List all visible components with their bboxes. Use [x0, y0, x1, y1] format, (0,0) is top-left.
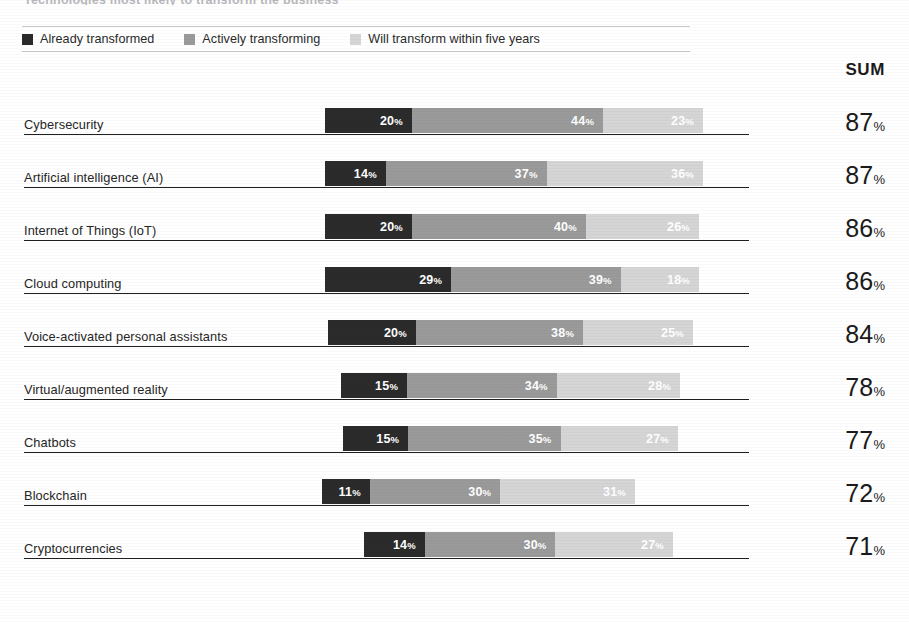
percent-sign: %: [585, 116, 594, 127]
legend-swatch-actively-transforming-icon: [184, 34, 195, 45]
bar-segment-value: 27%: [646, 432, 669, 446]
percent-sign: %: [529, 169, 538, 180]
bar-segment-already-transformed: 20%: [325, 214, 412, 239]
bar-segment-actively-transforming: 44%: [412, 108, 603, 133]
bar-segment-actively-transforming: 34%: [407, 373, 557, 398]
chart-row: Internet of Things (IoT)20%40%26%86%: [0, 194, 909, 247]
percent-sign: %: [407, 540, 416, 551]
row-category-label: Voice-activated personal assistants: [24, 329, 227, 344]
bar-segment-value: 44%: [571, 114, 594, 128]
bar-segment-value: 15%: [376, 432, 399, 446]
bar-segment-already-transformed: 20%: [325, 108, 412, 133]
row-sum-value: 71%: [845, 532, 885, 561]
row-category-label: Chatbots: [24, 435, 76, 450]
row-sum-number: 71: [845, 532, 873, 560]
percent-sign: %: [655, 540, 664, 551]
bar-segment-value: 31%: [603, 485, 626, 499]
chart-row: Blockchain11%30%31%72%: [0, 459, 909, 512]
legend-item-already-transformed: Already transformed: [22, 32, 154, 46]
percent-sign: %: [685, 116, 694, 127]
percent-sign: %: [394, 222, 403, 233]
row-sum-percent-sign: %: [873, 543, 885, 558]
percent-sign: %: [617, 487, 626, 498]
bar-segment-value: 20%: [380, 220, 403, 234]
bar-segment-will-transform: 18%: [621, 267, 699, 292]
bar-segment-already-transformed: 29%: [325, 267, 451, 292]
chart-row: Chatbots15%35%27%77%: [0, 406, 909, 459]
bar-segment-value: 35%: [529, 432, 552, 446]
row-sum-value: 87%: [845, 161, 885, 190]
bar-segment-value: 15%: [375, 379, 398, 393]
bar-segment-value: 14%: [393, 538, 416, 552]
sum-column-header: SUM: [845, 60, 885, 80]
bar-segment-value: 37%: [515, 167, 538, 181]
stacked-bar: 20%44%23%: [325, 108, 703, 133]
bar-segment-actively-transforming: 37%: [386, 161, 547, 186]
row-sum-value: 86%: [845, 267, 885, 296]
row-category-label: Virtual/augmented reality: [24, 382, 168, 397]
row-baseline-rule: [24, 505, 749, 506]
clipped-page-title: Technologies most likely to transform th…: [24, 0, 544, 5]
row-sum-value: 84%: [845, 320, 885, 349]
row-sum-number: 86: [845, 214, 873, 242]
row-sum-number: 72: [845, 479, 873, 507]
row-category-label: Cryptocurrencies: [24, 541, 122, 556]
legend-label-actively-transforming: Actively transforming: [202, 32, 320, 46]
percent-sign: %: [394, 116, 403, 127]
row-category-label: Internet of Things (IoT): [24, 223, 156, 238]
row-sum-percent-sign: %: [873, 331, 885, 346]
chart-rows: Cybersecurity20%44%23%87%Artificial inte…: [0, 88, 909, 565]
bar-segment-actively-transforming: 30%: [370, 479, 500, 504]
row-sum-percent-sign: %: [873, 437, 885, 452]
bar-segment-will-transform: 27%: [555, 532, 673, 557]
bar-segment-already-transformed: 14%: [364, 532, 425, 557]
bar-segment-value: 30%: [524, 538, 547, 552]
legend-label-will-transform: Will transform within five years: [368, 32, 540, 46]
percent-sign: %: [398, 328, 407, 339]
bar-segment-value: 14%: [354, 167, 377, 181]
row-category-label: Artificial intelligence (AI): [24, 170, 163, 185]
chart-row: Virtual/augmented reality15%34%28%78%: [0, 353, 909, 406]
row-sum-value: 87%: [845, 108, 885, 137]
row-baseline-rule: [24, 293, 749, 294]
row-sum-value: 72%: [845, 479, 885, 508]
row-category-label: Cloud computing: [24, 276, 122, 291]
stacked-bar: 29%39%18%: [325, 267, 699, 292]
percent-sign: %: [681, 275, 690, 286]
row-sum-percent-sign: %: [873, 119, 885, 134]
row-baseline-rule: [24, 187, 749, 188]
bar-segment-value: 20%: [384, 326, 407, 340]
stacked-bar: 14%30%27%: [364, 532, 673, 557]
bar-segment-already-transformed: 11%: [322, 479, 370, 504]
bar-segment-value: 23%: [671, 114, 694, 128]
chart-row: Voice-activated personal assistants20%38…: [0, 300, 909, 353]
bar-segment-value: 18%: [667, 273, 690, 287]
bar-segment-value: 39%: [589, 273, 612, 287]
stacked-bar: 20%40%26%: [325, 214, 699, 239]
row-sum-number: 87: [845, 161, 873, 189]
bar-segment-will-transform: 36%: [547, 161, 703, 186]
percent-sign: %: [539, 381, 548, 392]
legend-item-will-transform: Will transform within five years: [350, 32, 540, 46]
row-sum-number: 84: [845, 320, 873, 348]
bar-segment-value: 38%: [551, 326, 574, 340]
legend-item-actively-transforming: Actively transforming: [184, 32, 320, 46]
percent-sign: %: [543, 434, 552, 445]
legend-swatch-will-transform-icon: [350, 34, 361, 45]
bar-segment-will-transform: 27%: [561, 426, 678, 451]
bar-segment-already-transformed: 20%: [328, 320, 416, 345]
row-sum-number: 87: [845, 108, 873, 136]
bar-segment-already-transformed: 15%: [341, 373, 407, 398]
bar-segment-will-transform: 28%: [557, 373, 680, 398]
row-sum-percent-sign: %: [873, 172, 885, 187]
percent-sign: %: [433, 275, 442, 286]
percent-sign: %: [681, 222, 690, 233]
bar-segment-will-transform: 26%: [586, 214, 699, 239]
chart-legend: Already transformed Actively transformin…: [22, 26, 690, 52]
bar-segment-actively-transforming: 35%: [408, 426, 560, 451]
bar-segment-value: 40%: [554, 220, 577, 234]
chart-row: Cloud computing29%39%18%86%: [0, 247, 909, 300]
row-sum-percent-sign: %: [873, 278, 885, 293]
row-baseline-rule: [24, 558, 749, 559]
percent-sign: %: [660, 434, 669, 445]
